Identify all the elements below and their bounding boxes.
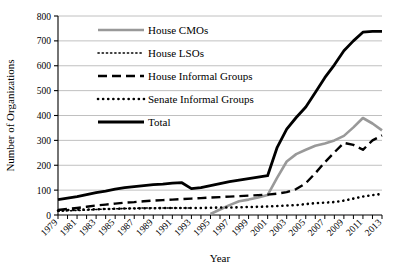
x-tick-label: 2007 bbox=[306, 217, 327, 238]
legend-label: Total bbox=[148, 116, 170, 128]
y-axis-title: Number of Organizations bbox=[4, 59, 16, 171]
series-line-house-cmos bbox=[211, 118, 383, 214]
series-line-house-informal-groups bbox=[58, 135, 382, 210]
line-chart: 0100200300400500600700800197919811983198… bbox=[0, 0, 394, 275]
legend-label: House LSOs bbox=[148, 47, 204, 59]
x-tick-label: 1989 bbox=[134, 217, 155, 238]
y-tick-label: 700 bbox=[37, 36, 52, 46]
y-tick-label: 100 bbox=[37, 186, 52, 196]
chart-container: 0100200300400500600700800197919811983198… bbox=[0, 0, 394, 275]
legend-label: Senate Informal Groups bbox=[148, 93, 254, 105]
x-tick-label: 2011 bbox=[344, 217, 364, 237]
legend: House CMOsHouse LSOsHouse Informal Group… bbox=[98, 24, 254, 128]
x-tick-label: 2001 bbox=[249, 217, 270, 238]
legend-label: House Informal Groups bbox=[148, 70, 252, 82]
y-tick-label: 400 bbox=[37, 111, 52, 121]
y-tick-label: 200 bbox=[37, 161, 52, 171]
y-tick-label: 500 bbox=[37, 86, 52, 96]
x-tick-label: 1995 bbox=[191, 217, 212, 238]
x-tick-label: 1993 bbox=[172, 217, 193, 238]
x-tick-label: 1983 bbox=[77, 217, 98, 238]
x-tick-label: 2003 bbox=[268, 217, 289, 238]
x-tick-label: 1997 bbox=[210, 217, 231, 238]
x-tick-label: 1987 bbox=[115, 217, 136, 238]
y-tick-label: 800 bbox=[37, 12, 52, 22]
x-tick-label: 1981 bbox=[58, 217, 79, 238]
x-tick-label: 1979 bbox=[39, 217, 60, 238]
y-axis: 0100200300400500600700800 bbox=[37, 12, 58, 221]
x-tick-label: 1991 bbox=[153, 217, 174, 238]
y-tick-label: 600 bbox=[37, 61, 52, 71]
x-tick-label: 2009 bbox=[325, 217, 346, 238]
x-tick-label: 2013 bbox=[363, 217, 384, 238]
x-axis-title: Year bbox=[210, 252, 231, 264]
x-axis: 1979198119831985198719891991199319951997… bbox=[39, 215, 384, 238]
x-tick-label: 2005 bbox=[287, 217, 308, 238]
y-tick-label: 300 bbox=[37, 136, 52, 146]
x-tick-label: 1999 bbox=[229, 217, 250, 238]
legend-label: House CMOs bbox=[148, 24, 208, 36]
x-tick-label: 1985 bbox=[96, 217, 117, 238]
